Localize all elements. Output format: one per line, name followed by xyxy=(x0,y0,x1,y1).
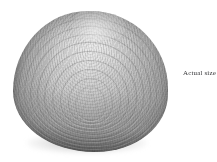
figure-page: Actual size xyxy=(0,0,217,162)
actual-size-caption: Actual size xyxy=(183,69,216,78)
specimen-photo-plate xyxy=(0,0,175,162)
shell-ventral-margin-shading xyxy=(13,11,168,152)
clam-shell-specimen xyxy=(13,11,168,152)
